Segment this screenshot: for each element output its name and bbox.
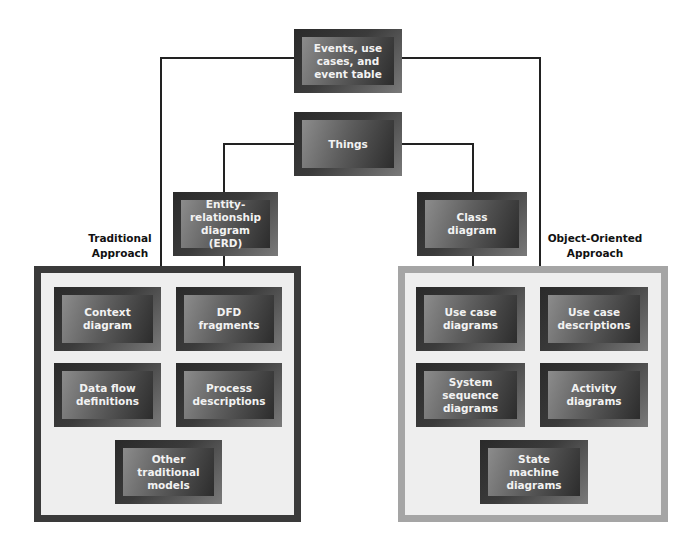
node-label: Things bbox=[302, 120, 394, 168]
node-label: Events, use cases, and event table bbox=[302, 37, 394, 85]
node-activity-diagrams: Activity diagrams bbox=[540, 363, 648, 427]
node-label: Process descriptions bbox=[184, 371, 274, 419]
node-label: Class diagram bbox=[425, 200, 519, 248]
node-label: DFD fragments bbox=[184, 295, 274, 343]
node-label: Activity diagrams bbox=[548, 371, 640, 419]
node-use-case-diagrams: Use case diagrams bbox=[416, 287, 525, 351]
node-data-flow-definitions: Data flow definitions bbox=[54, 363, 161, 427]
connector-things-right-v bbox=[472, 143, 474, 193]
node-other-traditional-models: Other traditional models bbox=[115, 440, 222, 504]
node-use-case-descriptions: Use case descriptions bbox=[540, 287, 648, 351]
node-label: Use case diagrams bbox=[424, 295, 517, 343]
node-label: State machine diagrams bbox=[488, 448, 580, 496]
node-label: Entity- relationship diagram (ERD) bbox=[181, 200, 270, 248]
connector-things-left-h bbox=[223, 143, 295, 145]
label-traditional-approach: Traditional Approach bbox=[80, 231, 160, 261]
node-system-sequence-diagrams: System sequence diagrams bbox=[416, 363, 525, 427]
node-label: System sequence diagrams bbox=[424, 371, 517, 419]
node-state-machine-diagrams: State machine diagrams bbox=[480, 440, 588, 504]
node-label: Data flow definitions bbox=[62, 371, 153, 419]
node-label: Other traditional models bbox=[123, 448, 214, 496]
node-label: Context diagram bbox=[62, 295, 153, 343]
connector-events-right-h bbox=[401, 57, 540, 59]
connector-things-left-v bbox=[223, 143, 225, 193]
connector-events-left-v bbox=[160, 57, 162, 267]
node-things: Things bbox=[294, 112, 402, 176]
node-label: Use case descriptions bbox=[548, 295, 640, 343]
node-context-diagram: Context diagram bbox=[54, 287, 161, 351]
connector-events-left-h bbox=[160, 57, 295, 59]
node-process-descriptions: Process descriptions bbox=[176, 363, 282, 427]
connector-things-right-h bbox=[401, 143, 473, 145]
label-object-oriented-approach: Object-Oriented Approach bbox=[540, 231, 650, 261]
node-erd: Entity- relationship diagram (ERD) bbox=[173, 192, 278, 256]
node-events-use-cases: Events, use cases, and event table bbox=[294, 29, 402, 93]
node-class-diagram: Class diagram bbox=[417, 192, 527, 256]
node-dfd-fragments: DFD fragments bbox=[176, 287, 282, 351]
